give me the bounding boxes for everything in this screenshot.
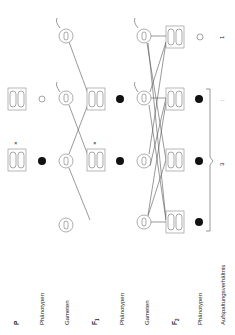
f1-phenotype-dominant-2-icon xyxy=(116,157,124,165)
f2-phenotype-dominant-2-icon xyxy=(195,157,203,165)
f2-phenotype-dominant-3-icon xyxy=(195,218,203,226)
label-phenotypes-p: Phänotypen xyxy=(39,293,45,325)
ratio-separator: : xyxy=(219,99,225,101)
gamete-bottom-p xyxy=(59,218,73,232)
gamete-A-p xyxy=(59,154,73,168)
f2-genotype-Aa-1 xyxy=(166,88,184,110)
gamete-f1-lower xyxy=(137,154,151,168)
cross-symbol-p: × xyxy=(14,140,18,146)
parent-dominant-genotype xyxy=(8,149,26,171)
gamete-top-p xyxy=(56,18,73,43)
row-labels: P Phänotypen Gameten F1 Phänotypen Gamet… xyxy=(13,265,226,325)
f2-genotype-Aa-2 xyxy=(166,149,184,171)
label-gametes-f1: Gameten xyxy=(144,300,150,325)
dominant-bracket xyxy=(206,89,213,231)
label-f2: F2 xyxy=(171,318,180,325)
label-p: P xyxy=(13,320,20,325)
label-gametes-p: Gameten xyxy=(64,300,70,325)
f2-phenotype-recessive-icon xyxy=(197,34,203,40)
ratio-dominant: 3 xyxy=(219,162,225,166)
parent-recessive-genotype xyxy=(8,88,26,110)
phenotype-dominant-icon xyxy=(38,157,46,165)
f1-phenotype-dominant-1-icon xyxy=(116,95,124,103)
ratio-recessive: 1 xyxy=(219,35,225,39)
cross-symbol-f1: × xyxy=(93,140,97,146)
f2-phenotype-dominant-1-icon xyxy=(195,95,203,103)
gamete-a-p xyxy=(56,82,73,105)
mendel-cross-diagram: P Phänotypen Gameten F1 Phänotypen Gamet… xyxy=(0,0,235,335)
gamete-f1-top xyxy=(134,18,151,43)
gamete-f1-mid xyxy=(134,82,151,105)
f2-genotype-aa xyxy=(166,26,184,48)
label-phenotypes-f1: Phänotypen xyxy=(119,293,125,325)
label-phenotypes-f2: Phänotypen xyxy=(197,293,203,325)
f1-genotype-2 xyxy=(87,149,105,171)
gamete-f1-bottom xyxy=(137,215,151,229)
label-ratio: Aufspaltungsverhältnis xyxy=(220,265,226,325)
f2-genotype-AA xyxy=(166,211,184,233)
phenotype-recessive-icon xyxy=(39,96,45,102)
f1-genotype-1 xyxy=(87,88,105,110)
label-f1: F1 xyxy=(91,318,100,325)
